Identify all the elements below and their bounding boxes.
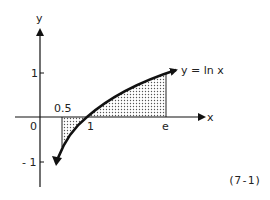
plot-area — [0, 0, 270, 200]
y-tick-label-one: 1 — [31, 68, 38, 79]
shaded-region-positive — [87, 74, 166, 117]
y-tick-label-neg-one: - 1 — [22, 157, 36, 168]
figure-number: (7-1) — [228, 175, 261, 186]
tick-label-e: e — [162, 121, 169, 132]
y-axis-label: y — [36, 13, 43, 24]
tick-label-half: 0.5 — [54, 103, 72, 114]
origin-label: 0 — [30, 121, 37, 132]
figure: y x 0 0.5 1 e 1 - 1 y = ln x (7-1) — [0, 0, 270, 200]
curve-arrow-down — [52, 156, 62, 166]
curve-label: y = ln x — [181, 65, 224, 76]
tick-label-one: 1 — [87, 121, 94, 132]
x-axis-label: x — [207, 112, 214, 123]
